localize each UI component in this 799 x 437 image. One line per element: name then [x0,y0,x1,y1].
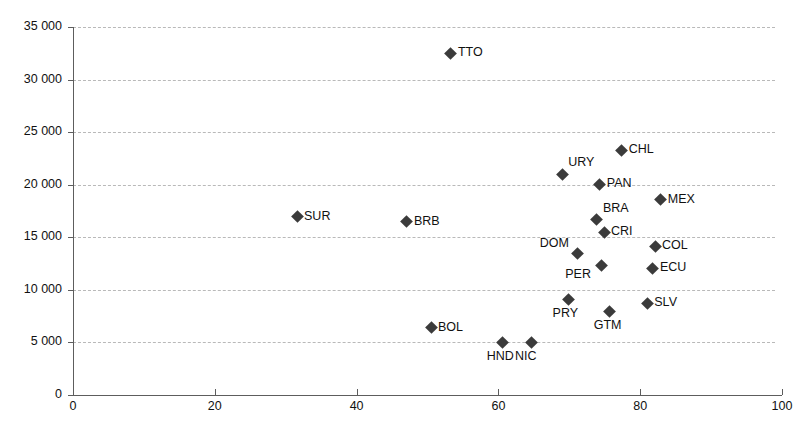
x-axis-tick-label: 100 [757,399,799,413]
x-axis-tick-label: 60 [473,399,523,413]
x-axis-tick-label: 80 [615,399,665,413]
x-axis-line [73,395,782,396]
data-point-label: BRA [603,202,629,215]
data-point-label: BRB [414,215,440,228]
data-point-label: ECU [660,261,686,274]
chart-title [0,0,799,8]
y-axis-tick-label: 10 000 [0,282,62,296]
scatter-chart: 05 00010 00015 00020 00025 00030 00035 0… [0,0,799,437]
data-point-label: COL [662,239,688,252]
y-axis-tick-label: 35 000 [0,19,62,33]
data-point-label: URY [568,156,594,169]
data-point-label: BOL [438,321,463,334]
y-axis-tick-label: 25 000 [0,124,62,138]
x-axis-tick-label: 40 [332,399,382,413]
data-point-label: SUR [304,210,330,223]
x-axis-tick-label: 0 [48,399,98,413]
data-point-label: PRY [553,307,578,320]
y-axis-tick-label: 5 000 [0,334,62,348]
plot-area [73,27,775,395]
y-axis-tick-label: 30 000 [0,72,62,86]
data-point-label: CRI [611,225,633,238]
data-point-label: PAN [607,177,632,190]
data-point-label: GTM [594,319,622,332]
data-point-label: HND [487,350,514,363]
x-axis-tick [782,389,783,395]
y-axis-tick-label: 20 000 [0,177,62,191]
data-point-label: MEX [668,193,695,206]
data-point-label: DOM [540,237,569,250]
x-axis-tick-label: 20 [190,399,240,413]
data-point-label: CHL [629,143,654,156]
data-point-label: NIC [515,350,537,363]
y-axis-tick-label: 15 000 [0,229,62,243]
data-point-label: TTO [458,46,483,59]
data-point-label: SLV [654,296,677,309]
data-point-label: PER [565,268,591,281]
